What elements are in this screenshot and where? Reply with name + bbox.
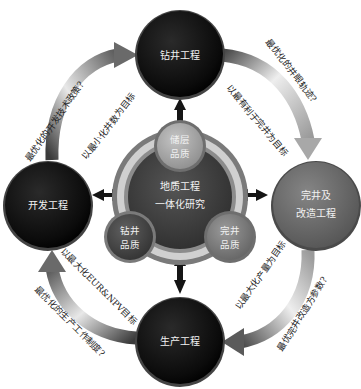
svg-text:完井及: 完井及 (301, 189, 331, 201)
arrow-goal-label: 以最有利于完井为目标 (224, 82, 290, 158)
svg-text:生产工程: 生产工程 (160, 335, 200, 347)
node-drilling-engineering: 钻井工程 (135, 10, 225, 100)
svg-text:完井: 完井 (220, 225, 240, 236)
node-development-engineering: 开发工程 (3, 161, 93, 251)
arrowhead-icon (114, 42, 138, 68)
quality-reservoir: 储层 品质 (154, 120, 206, 172)
svg-text:钻井: 钻井 (120, 225, 140, 236)
arrow-production-to-development (38, 250, 136, 338)
node-production-engineering: 生产工程 (135, 297, 225, 387)
arrow-goal-label: 以最小化井数为目标 (79, 91, 138, 162)
arrowhead-icon (222, 328, 244, 356)
svg-text:钻井工程: 钻井工程 (160, 49, 200, 61)
center-title-line1: 地质工程 (160, 180, 200, 192)
svg-text:品质: 品质 (170, 148, 190, 159)
svg-text:品质: 品质 (220, 239, 240, 250)
arrowhead-icon (294, 138, 322, 160)
quality-completion: 完井 品质 (204, 211, 256, 263)
svg-text:品质: 品质 (120, 239, 140, 250)
svg-text:开发工程: 开发工程 (28, 199, 68, 211)
svg-text:储层: 储层 (170, 134, 190, 145)
quality-drilling: 钻井 品质 (104, 211, 156, 263)
node-completion-engineering: 完井及 改造工程 (271, 161, 361, 251)
svg-text:改造工程: 改造工程 (296, 207, 336, 219)
center-title-line2: 一体化研究 (155, 198, 205, 210)
geo-engineering-diagram: 最优化的开发技术政策? 以最小化井数为目标 最优化的井眼轨迹? 以最有利于完井为… (0, 0, 361, 389)
